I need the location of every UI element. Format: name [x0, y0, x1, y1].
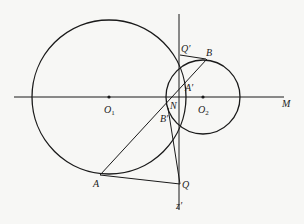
- label-o2: O2: [198, 104, 209, 117]
- line-a-b: [100, 59, 207, 175]
- label-m: M: [281, 98, 291, 109]
- label-o1: O1: [104, 104, 115, 117]
- label-q: Q: [182, 179, 190, 190]
- line-a-q: [100, 175, 180, 184]
- label-b-prime: B′: [160, 113, 169, 124]
- center-o1-point: [107, 95, 110, 98]
- label-b: B: [206, 47, 212, 58]
- center-o2-point: [201, 95, 204, 98]
- label-z-prime: z′: [175, 200, 183, 211]
- geometry-diagram: O1 O2 M N A B A′ B′ Q Q′ z′: [0, 0, 304, 224]
- label-a-prime: A′: [184, 82, 194, 93]
- line-q-prime-b: [180, 55, 206, 59]
- label-n: N: [169, 100, 178, 111]
- label-a: A: [92, 178, 100, 189]
- label-q-prime: Q′: [181, 43, 191, 54]
